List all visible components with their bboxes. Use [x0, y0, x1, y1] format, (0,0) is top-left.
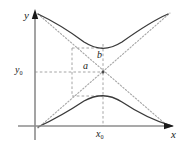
- y0-base: y: [15, 64, 19, 75]
- figure-canvas: [0, 0, 182, 148]
- x0-subscript: 0: [101, 133, 104, 140]
- x0-tick-label: x0: [96, 129, 104, 139]
- lower-branch: [38, 96, 172, 127]
- semi-axis-a-label: a: [83, 61, 88, 71]
- center-guide-group: [35, 44, 103, 126]
- hyperbola-figure: y x y0 x0 a b: [0, 0, 182, 148]
- x-axis-label: x: [171, 129, 176, 140]
- y0-subscript: 0: [20, 69, 23, 76]
- semi-axis-b-label: b: [97, 50, 102, 60]
- y-axis-label: y: [24, 10, 29, 21]
- x0-base: x: [96, 128, 100, 139]
- y0-tick-label: y0: [15, 65, 23, 75]
- center-point-marker: [102, 71, 105, 74]
- asymptote-group: [38, 13, 170, 128]
- axis-group: [18, 9, 174, 140]
- y-axis-arrowhead: [32, 9, 38, 19]
